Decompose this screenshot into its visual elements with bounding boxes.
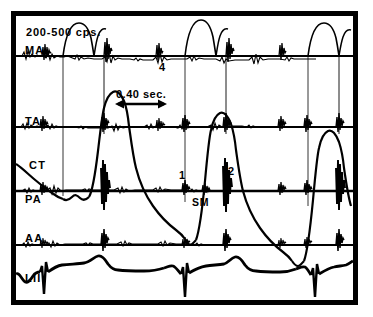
marker-label-2: 2 xyxy=(228,166,235,177)
waveform-traces xyxy=(16,16,353,300)
channel-label-aa: AA xyxy=(25,233,43,244)
trace-AA xyxy=(16,229,353,251)
marker-label-4: 4 xyxy=(159,62,166,73)
marker-label-1: 1 xyxy=(179,170,186,181)
marker-label-sm: SM xyxy=(192,197,209,208)
trace-TA xyxy=(16,113,353,132)
recording-frame: 200-500 cps. MA TA CT PA AA LII 0.40 sec… xyxy=(11,11,358,305)
channel-label-pa: PA xyxy=(25,194,42,205)
trace-plot-area: 200-500 cps. MA TA CT PA AA LII 0.40 sec… xyxy=(16,16,353,300)
channel-label-ta: TA xyxy=(25,116,41,127)
trace-PA xyxy=(16,158,353,212)
channel-label-lii: LII xyxy=(25,273,41,284)
interval-label: 0.40 sec. xyxy=(116,89,166,100)
phonocardiogram-figure: 200-500 cps. MA TA CT PA AA LII 0.40 sec… xyxy=(0,0,373,317)
time-calibration-arrow xyxy=(115,100,167,109)
channel-label-ct: CT xyxy=(29,160,46,171)
channel-label-ma: MA xyxy=(25,45,45,56)
frequency-band-label: 200-500 cps. xyxy=(26,27,101,38)
